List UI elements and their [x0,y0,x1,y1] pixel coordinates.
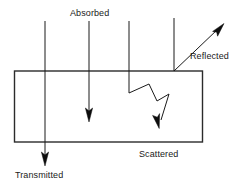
label-scattered: Scattered [139,149,178,159]
diagram-root: Absorbed Reflected Scattered Transmitted [0,0,243,181]
optics-diagram-canvas: Absorbed Reflected Scattered Transmitted [0,0,243,181]
label-absorbed: Absorbed [70,8,109,18]
reflected-arrow-head [213,24,224,37]
label-reflected: Reflected [190,51,229,61]
reflected-ray-line [174,29,218,71]
medium-slab-rectangle [15,71,203,142]
label-transmitted: Transmitted [15,170,63,180]
